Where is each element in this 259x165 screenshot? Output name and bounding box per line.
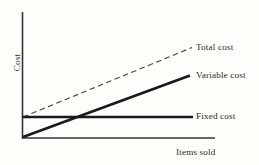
series-label-fixed-cost: Fixed cost [196, 112, 236, 121]
series-label-variable-cost: Variable cost [196, 71, 246, 80]
series-label-total-cost: Total cost [196, 43, 233, 52]
y-axis-label: Cost [13, 47, 22, 79]
x-axis-label: Items sold [176, 148, 216, 157]
cost-volume-chart: Total cost Variable cost Fixed cost Item… [0, 0, 259, 165]
chart-plot-area [0, 0, 259, 165]
